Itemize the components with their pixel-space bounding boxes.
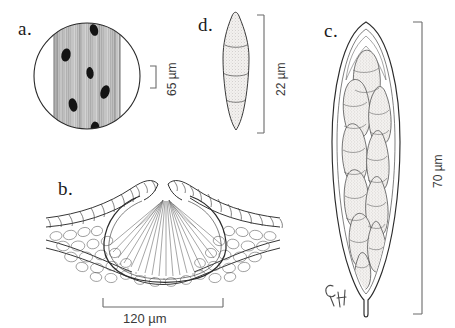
figure-plate: a. [0, 0, 455, 328]
panel-a: a. [0, 0, 185, 160]
panel-c-scale-bar [413, 22, 422, 314]
panel-a-label: a. [18, 18, 32, 40]
panel-b-drawing [40, 170, 290, 328]
panel-b-ostiole [144, 184, 182, 200]
panel-d-scale-label: 22 µm [274, 62, 288, 96]
panel-b: b. [40, 170, 290, 328]
panel-b-parenchyma-cells [49, 225, 276, 286]
panel-a-scale-label: 65 µm [165, 62, 179, 96]
panel-c: c. [300, 0, 455, 328]
panel-c-label: c. [324, 20, 338, 42]
panel-b-scale-label: 120 µm [123, 311, 167, 326]
panel-a-tissue-band [54, 18, 120, 136]
panel-d: d. 22 µm [190, 0, 295, 145]
panel-a-scale-bracket [150, 66, 156, 88]
panel-b-scale-bar [103, 298, 223, 307]
panel-b-tissue-outline [46, 181, 280, 285]
panel-c-annotation [326, 285, 346, 307]
panel-d-scale-bar [257, 15, 264, 133]
panel-c-ascospore-mass [342, 50, 391, 290]
panel-d-label: d. [198, 14, 213, 36]
panel-b-label: b. [58, 178, 73, 200]
panel-c-scale-label: 70 µm [431, 154, 445, 188]
panel-d-ascospore [223, 12, 249, 130]
